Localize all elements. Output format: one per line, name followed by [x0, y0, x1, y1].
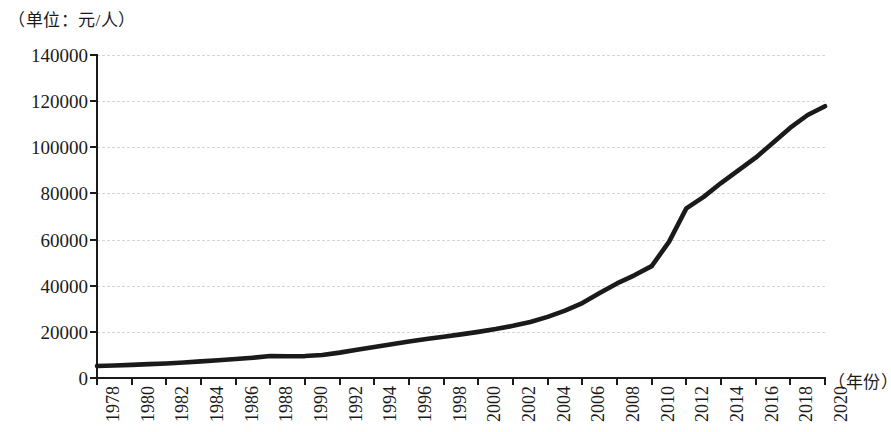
x-axis-tick [512, 377, 514, 385]
y-axis-tick [90, 239, 98, 241]
x-axis-tick [824, 377, 826, 385]
y-axis-tick [90, 146, 98, 148]
x-axis-tick [685, 377, 687, 385]
x-axis-tick [269, 377, 271, 385]
x-axis-tick-label: 1982 [173, 386, 191, 422]
x-axis-tick [408, 377, 410, 385]
x-axis-tick-label: 1994 [381, 386, 399, 422]
x-axis-tick-label: 1978 [104, 386, 122, 422]
x-axis-tick-label: 1988 [277, 386, 295, 422]
x-axis-tick-label: 2002 [520, 386, 538, 422]
x-axis-tick [131, 377, 133, 385]
x-axis-tick [200, 377, 202, 385]
x-axis-tick [304, 377, 306, 385]
x-axis-tick [651, 377, 653, 385]
y-axis-tick [90, 54, 98, 56]
x-axis-tick [373, 377, 375, 385]
y-axis-tick [90, 192, 98, 194]
x-axis-tick-label: 1980 [139, 386, 157, 422]
x-axis-tick-label: 2000 [485, 386, 503, 422]
x-axis-tick-label: 2020 [832, 386, 850, 422]
x-axis-tick-label: 1984 [208, 386, 226, 422]
x-axis-tick-label: 2018 [797, 386, 815, 422]
x-axis-tick-label: 1990 [312, 386, 330, 422]
x-axis-tick-label: 1992 [347, 386, 365, 422]
x-axis-tick-label: 1998 [451, 386, 469, 422]
x-axis-tick [96, 377, 98, 385]
x-axis-tick-label: 2004 [555, 386, 573, 422]
x-axis-tick [616, 377, 618, 385]
y-axis-tick [90, 100, 98, 102]
x-axis-tick-label: 1996 [416, 386, 434, 422]
x-axis-tick [477, 377, 479, 385]
x-axis-tick [443, 377, 445, 385]
x-axis-tick [339, 377, 341, 385]
x-axis-tick-label: 2014 [728, 386, 746, 422]
x-axis-tick [755, 377, 757, 385]
x-axis-tick [165, 377, 167, 385]
y-axis-tick [90, 331, 98, 333]
chart-container: （单位：元/人） 0200004000060000800001000001200… [0, 0, 891, 432]
x-axis-tick [789, 377, 791, 385]
x-axis-tick [547, 377, 549, 385]
x-axis-tick-label: 1986 [243, 386, 261, 422]
x-axis-tick [720, 377, 722, 385]
x-axis-tick-label: 2008 [624, 386, 642, 422]
x-axis-tick [235, 377, 237, 385]
x-axis-tick-label: 2006 [589, 386, 607, 422]
y-axis-tick [90, 285, 98, 287]
x-axis-tick-label: 2016 [763, 386, 781, 422]
x-axis-tick-label: 2012 [693, 386, 711, 422]
data-series-line [0, 0, 891, 432]
x-axis-tick-label: 2010 [659, 386, 677, 422]
x-axis-tick [581, 377, 583, 385]
